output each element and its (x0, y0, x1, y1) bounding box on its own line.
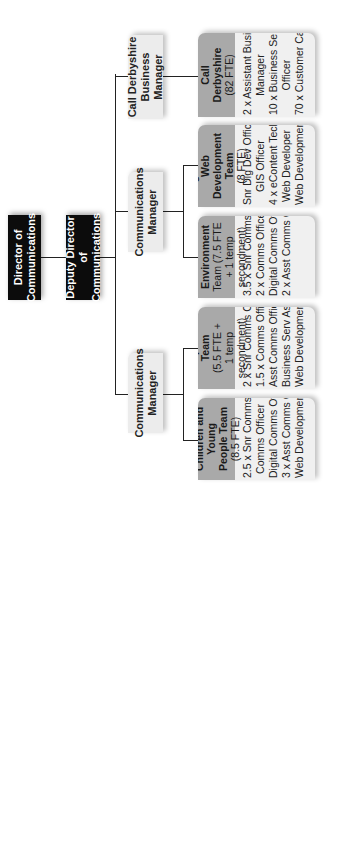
role-item: 10 x Business Service (267, 35, 280, 115)
team-roles: 3.5 x Snr Comms Officer 2 x Comms Office… (235, 216, 297, 298)
team-name-line1: Digital and Web (198, 128, 211, 204)
director-box[interactable]: Director of Communications (8, 215, 41, 300)
role-item: Web Development Asst (293, 400, 306, 478)
role-item: 2.5 x Snr Comms Officer (241, 400, 254, 478)
deputy-title-line2: Communications (90, 213, 103, 302)
role-item: Asst Comms Officer (267, 309, 280, 387)
team-fte: (82 FTE) (223, 54, 235, 95)
deputy-title-line1: Deputy Director of (64, 215, 90, 300)
manager-1-line2: Manager (146, 370, 159, 415)
team-name-line2: Development Team (211, 128, 235, 204)
team-fte: (8.5 FTE) (229, 417, 241, 461)
team-header: Corporate Team (5.5 FTE + 1 temp secondm… (198, 307, 235, 389)
team-name-line1: Adults and Environment (198, 219, 211, 295)
role-item: Officer (280, 35, 293, 115)
role-item: Snr Dig Dev Officer (241, 127, 254, 205)
role-item: 2 x Asst Comms Officer (280, 218, 293, 296)
connector-corporate (183, 348, 198, 349)
role-item: Web Development Asst (293, 127, 306, 205)
team-roles: 2 x Snr Comms Officer 1.5 x Comms Office… (235, 307, 310, 389)
spine-line (115, 74, 116, 395)
team-card-children-young-people[interactable]: Children and Young People Team (8.5 FTE)… (198, 398, 315, 480)
team-card-corporate[interactable]: Corporate Team (5.5 FTE + 1 temp secondm… (198, 307, 315, 389)
manager-1-line1: Communications (133, 348, 146, 437)
role-item: 2 x Assistant Business (241, 35, 254, 115)
team-card-digital-web-development[interactable]: Digital and Web Development Team (8 FTE)… (198, 125, 315, 207)
team-card-adults-environment[interactable]: Adults and Environment Team (7.5 FTE + 1… (198, 216, 315, 298)
director-title-line1: Director of (12, 230, 25, 286)
team-fte: Team (7.5 FTE + 1 temp (211, 219, 235, 295)
connector-cyp (183, 440, 198, 441)
org-chart: Director of Communications Deputy Direct… (0, 0, 337, 846)
role-item: 2 x Comms Officer (254, 218, 267, 296)
role-item: 70 x Customer Care Asst (293, 35, 306, 115)
connector-mgr2 (115, 211, 128, 212)
role-item: 2 x Snr Comms Officer (241, 309, 254, 387)
team-name-line2: Derbyshire (211, 48, 223, 103)
communications-manager-2-box[interactable]: Communications Manager (128, 172, 163, 252)
connector-mgr2-out (163, 211, 183, 212)
connector-adults (183, 257, 198, 258)
role-item: Manager (254, 35, 267, 115)
team-card-call-derbyshire[interactable]: Call Derbyshire (82 FTE) 2 x Assistant B… (198, 33, 315, 117)
connector-dir-dep (41, 257, 66, 258)
connector-mgr2-bus (183, 165, 184, 258)
role-item: 3 x Asst Comms Officer (280, 400, 293, 478)
team-header: Digital and Web Development Team (8 FTE) (198, 125, 235, 207)
team-name-line2: People Team (217, 407, 229, 471)
team-roles: Snr Dig Dev Officer GIS Officer 4 x eCon… (235, 125, 310, 207)
team-name-line1: Call (199, 65, 211, 84)
role-item: Business Serv Asst (280, 309, 293, 387)
role-item: Web Developer (280, 127, 293, 205)
manager-3-line2: Business Manager (139, 35, 165, 119)
team-fte: (5.5 FTE + (211, 323, 223, 373)
manager-2-line2: Manager (146, 189, 159, 234)
manager-2-line1: Communications (133, 167, 146, 256)
connector-mgr1-bus (183, 348, 184, 441)
team-name-line1: Corporate Team (198, 310, 211, 386)
connector-mgr1-out (163, 394, 183, 395)
role-item: GIS Officer (254, 127, 267, 205)
team-header: Children and Young People Team (8.5 FTE) (198, 398, 235, 480)
call-derbyshire-business-manager-box[interactable]: Call Derbyshire Business Manager (128, 35, 163, 119)
connector-mgr3-out (163, 76, 198, 77)
connector-digital (183, 165, 198, 166)
role-item: Digital Comms Officer (267, 218, 280, 296)
deputy-director-box[interactable]: Deputy Director of Communications (66, 215, 100, 300)
manager-3-line1: Call Derbyshire (126, 37, 139, 118)
communications-manager-1-box[interactable]: Communications Manager (128, 353, 163, 433)
team-header: Call Derbyshire (82 FTE) (198, 33, 235, 117)
director-title-line2: Communications (25, 213, 38, 302)
role-item: Comms Officer (254, 400, 267, 478)
team-name-line1: Children and Young (198, 401, 217, 477)
team-roles: 2 x Assistant Business Manager 10 x Busi… (235, 33, 310, 117)
role-item: 3.5 x Snr Comms Officer (241, 218, 254, 296)
team-header: Adults and Environment Team (7.5 FTE + 1… (198, 216, 235, 298)
role-item: Web Development Asst (293, 309, 306, 387)
connector-mgr1 (115, 394, 128, 395)
team-roles: 2.5 x Snr Comms Officer Comms Officer Di… (235, 398, 310, 480)
role-item: 1.5 x Comms Officer (254, 309, 267, 387)
role-item: Digital Comms Officer (267, 400, 280, 478)
role-item: 4 x eContent Tech Officer (267, 127, 280, 205)
